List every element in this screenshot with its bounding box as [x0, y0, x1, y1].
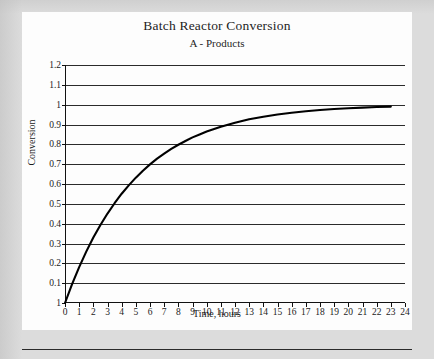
x-tick-label: 3: [105, 307, 110, 317]
y-tick-label: 0.6: [49, 179, 61, 189]
y-tick-label: 1.1: [49, 80, 61, 90]
x-tick-label: 14: [259, 307, 269, 317]
y-tick-label: 0.9: [49, 120, 61, 130]
x-tick-label: 23: [386, 307, 396, 317]
x-tick-label: 5: [133, 307, 138, 317]
x-tick-label: 21: [358, 307, 368, 317]
y-tick-label: 0.5: [49, 199, 61, 209]
x-tick-label: 10: [202, 307, 212, 317]
x-tick-label: 6: [148, 307, 153, 317]
x-tick-label: 11: [216, 307, 225, 317]
y-tick-label: 1: [56, 298, 61, 308]
y-tick-label: 0.7: [49, 159, 61, 169]
x-tick-label: 2: [91, 307, 96, 317]
x-tick-label: 7: [162, 307, 167, 317]
x-tick-label: 20: [344, 307, 354, 317]
x-tick-label: 22: [372, 307, 382, 317]
figure-panel: Batch Reactor Conversion A - Products Co…: [22, 12, 412, 330]
x-tick-label: 12: [230, 307, 240, 317]
x-tick-label: 18: [315, 307, 325, 317]
x-tick-label: 4: [119, 307, 124, 317]
x-tick-label: 16: [287, 307, 297, 317]
x-tick-label: 8: [176, 307, 181, 317]
x-tick-label: 0: [63, 307, 68, 317]
x-tick-label: 19: [329, 307, 339, 317]
y-tick-label: 1.2: [49, 60, 61, 70]
plot-area: 10.10.20.30.40.50.60.70.80.911.11.2 0123…: [65, 65, 405, 303]
y-tick-label: 0.2: [49, 258, 61, 268]
y-tick-label: 0.4: [49, 219, 61, 229]
y-tick-label: 1: [56, 100, 61, 110]
y-tick-label: 0.1: [49, 278, 61, 288]
chart-title: Batch Reactor Conversion: [22, 18, 412, 34]
x-tick-label: 9: [190, 307, 195, 317]
x-tick-label: 17: [301, 307, 311, 317]
y-tick-label: 0.3: [49, 239, 61, 249]
x-tick-label: 1: [77, 307, 82, 317]
footer-rule: [22, 349, 412, 350]
conversion-curve: [65, 65, 405, 303]
chart-subtitle: A - Products: [22, 37, 412, 49]
y-axis-title: Conversion: [26, 119, 37, 165]
x-tick-label: 24: [400, 307, 410, 317]
y-tick-label: 0.8: [49, 139, 61, 149]
x-tick-label: 15: [273, 307, 283, 317]
x-tick-label: 13: [244, 307, 254, 317]
